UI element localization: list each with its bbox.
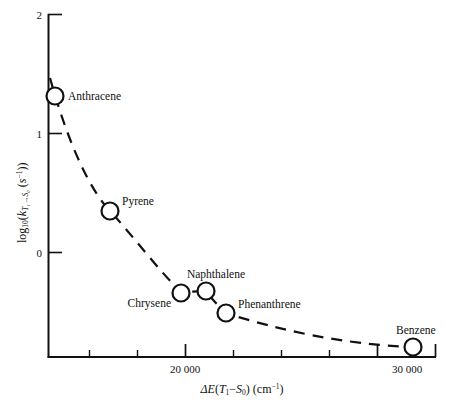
y-tick-label-1: 1 [37, 128, 43, 140]
point-label-chrysene: Chrysene [128, 297, 171, 310]
data-point-labels: Anthracene Pyrene Chrysene Naphthalene P… [68, 90, 436, 336]
y-title-s-sup: −1 [15, 170, 24, 178]
x-axis-minor-ticks [90, 350, 330, 357]
y-axis-tick-labels: 2 1 0 [37, 9, 43, 259]
x-tick-label-20000: 20 000 [170, 363, 201, 375]
data-point-marker[interactable] [173, 285, 190, 302]
point-label-naphthalene: Naphthalene [187, 268, 245, 281]
y-axis-ticks [48, 15, 62, 253]
x-title-delta: Δ [200, 382, 208, 396]
point-label-benzene: Benzene [396, 324, 436, 336]
y-title-log: log [15, 228, 29, 243]
data-point-marker[interactable] [198, 283, 215, 300]
svg-text:log10(kT₁→S₀ (s−1)): log10(kT₁→S₀ (s−1)) [15, 163, 30, 243]
chart-svg: 2 1 0 20 000 30 000 [0, 0, 452, 402]
data-points [47, 88, 422, 356]
data-point-marker[interactable] [47, 88, 64, 105]
y-title-space: ( [15, 183, 29, 190]
x-title-unit-sup: −1 [272, 382, 280, 391]
point-label-pyrene: Pyrene [122, 195, 154, 208]
x-axis-tick-labels: 20 000 30 000 [170, 363, 423, 375]
y-tick-label-0: 0 [37, 247, 43, 259]
y-axis-title: log10(kT₁→S₀ (s−1)) [15, 163, 30, 243]
data-point-marker[interactable] [218, 305, 235, 322]
x-title-unit-open: (cm [250, 382, 272, 396]
y-title-close: )) [15, 163, 29, 171]
x-axis-title: ΔE(T1−S0) (cm−1) [200, 382, 284, 397]
x-tick-label-30000: 30 000 [392, 363, 423, 375]
svg-text:ΔE(T1−S0) (cm−1): ΔE(T1−S0) (cm−1) [200, 382, 284, 397]
y-title-k-sub: T₁→S₀ [21, 190, 30, 211]
point-label-phenanthrene: Phenanthrene [238, 298, 301, 310]
point-label-anthracene: Anthracene [68, 90, 121, 102]
y-tick-label-2: 2 [37, 9, 43, 21]
chart-figure: 2 1 0 20 000 30 000 [0, 0, 452, 402]
x-title-unit-close: ) [280, 382, 284, 396]
data-point-marker[interactable] [405, 339, 422, 356]
data-point-marker[interactable] [102, 203, 119, 220]
